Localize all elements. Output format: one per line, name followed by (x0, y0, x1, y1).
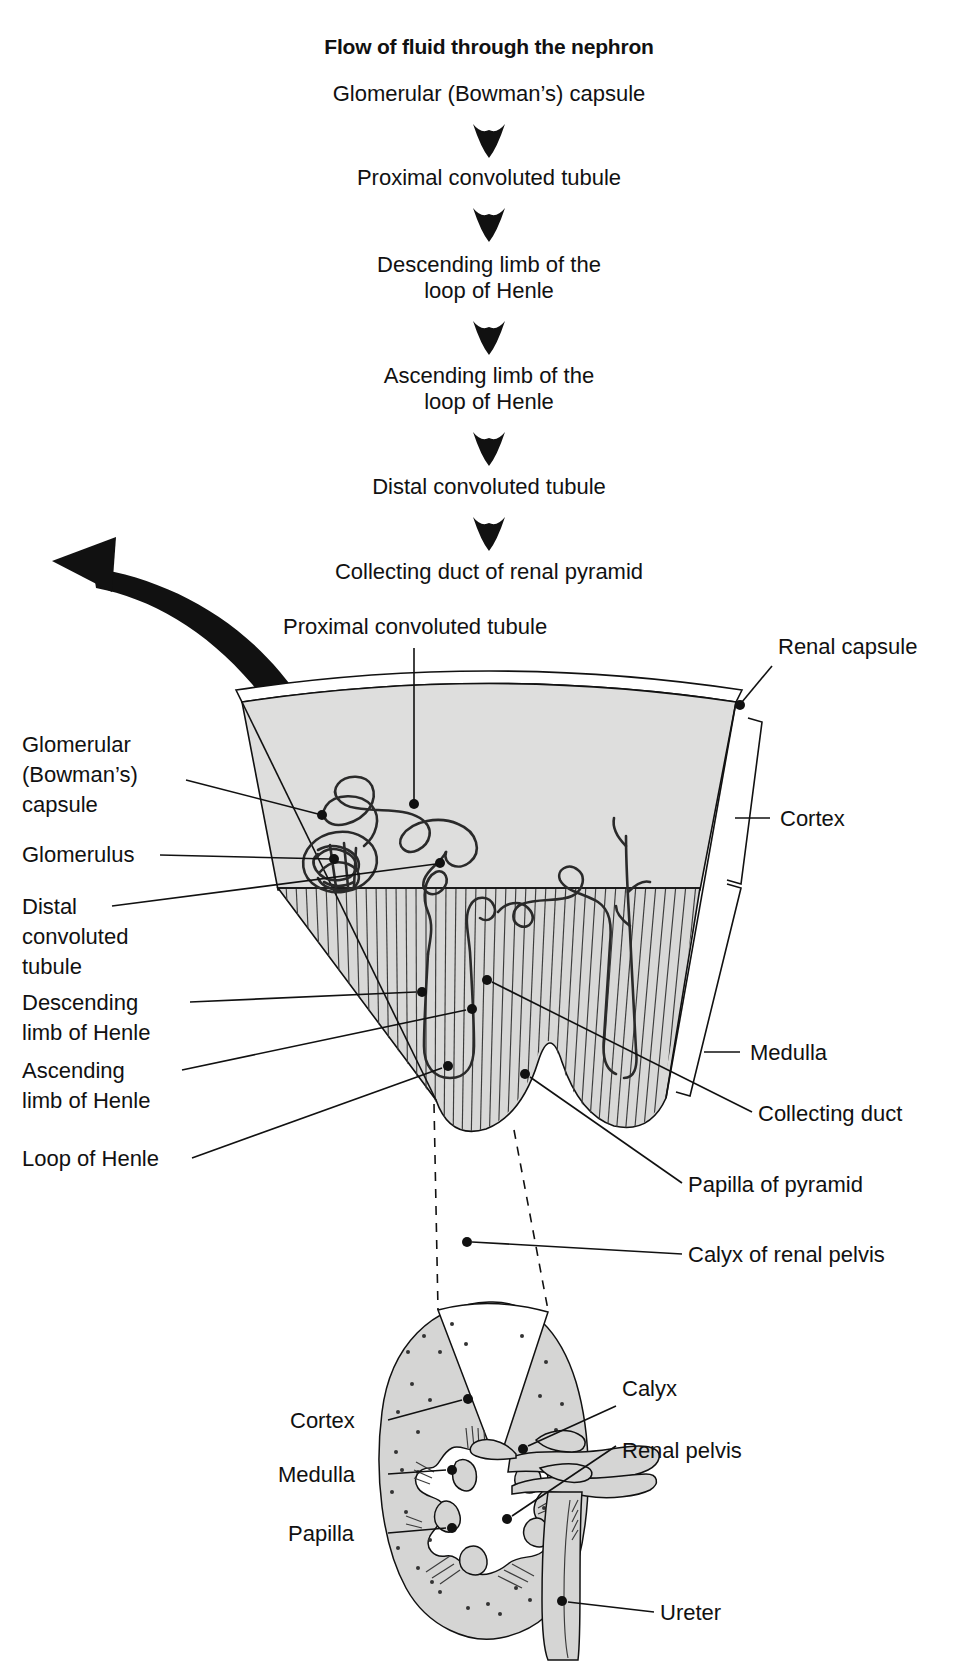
label-glomerulus: Glomerulus (22, 842, 134, 867)
diagram-page: Flow of fluid through the nephron Glomer… (0, 0, 978, 1677)
label-collecting-duct: Collecting duct (758, 1101, 902, 1126)
label-descending-limb-line-1: Descending (22, 990, 138, 1015)
marker-loop-of-henle (443, 1061, 453, 1071)
label-calyx-of-renal-pelvis: Calyx of renal pelvis (688, 1242, 885, 1267)
page-title: Flow of fluid through the nephron (324, 35, 653, 58)
label-inset-calyx: Calyx (622, 1376, 677, 1401)
flow-step-3-line-1: Descending limb of the (377, 252, 601, 277)
label-papilla-of-pyramid: Papilla of pyramid (688, 1172, 863, 1197)
flow-step-4-line-1: Ascending limb of the (384, 363, 594, 388)
marker-inset-calyx (518, 1444, 528, 1454)
nephron-diagram: Flow of fluid through the nephron Glomer… (0, 0, 978, 1677)
marker-collecting-duct (482, 975, 492, 985)
label-inset-medulla: Medulla (278, 1462, 356, 1487)
marker-inset-papilla (447, 1523, 457, 1533)
marker-calyx-of-renal-pelvis (462, 1237, 472, 1247)
marker-ascending-limb (467, 1004, 477, 1014)
medulla-region (278, 888, 700, 1131)
flow-step-4-line-2: loop of Henle (424, 389, 554, 414)
marker-proximal-convoluted-tubule (409, 799, 419, 809)
label-inset-ureter: Ureter (660, 1600, 721, 1625)
marker-inset-ureter (557, 1596, 567, 1606)
flow-step-3-line-2: loop of Henle (424, 278, 554, 303)
flow-step-6: Collecting duct of renal pyramid (335, 559, 643, 584)
label-inset-renal-pelvis: Renal pelvis (622, 1438, 742, 1463)
label-renal-capsule: Renal capsule (778, 634, 917, 659)
leader-loop-of-henle (192, 1068, 442, 1158)
label-ascending-limb-line-2: limb of Henle (22, 1088, 150, 1113)
flow-arrow-4 (473, 426, 505, 466)
marker-inset-renal-pelvis (502, 1514, 512, 1524)
label-medulla: Medulla (750, 1040, 828, 1065)
marker-inset-medulla (447, 1465, 457, 1475)
marker-descending-limb (417, 987, 427, 997)
flow-step-2: Proximal convoluted tubule (357, 165, 621, 190)
marker-renal-capsule (735, 700, 745, 710)
inset-ureter-tube (542, 1492, 582, 1660)
label-inset-papilla: Papilla (288, 1521, 355, 1546)
label-glomerular-capsule-line-1: Glomerular (22, 732, 131, 757)
flow-arrow-3 (473, 315, 505, 355)
leader-inset-ureter (568, 1602, 654, 1612)
label-ascending-limb-line-1: Ascending (22, 1058, 125, 1083)
flow-step-5: Distal convoluted tubule (372, 474, 606, 499)
label-glomerular-capsule-line-3: capsule (22, 792, 98, 817)
label-distal-convoluted-tubule-line-2: convoluted (22, 924, 128, 949)
leader-renal-capsule (742, 666, 772, 702)
magnify-line-left (434, 1104, 438, 1310)
label-proximal-convoluted-tubule: Proximal convoluted tubule (283, 614, 547, 639)
label-descending-limb-line-2: limb of Henle (22, 1020, 150, 1045)
marker-inset-cortex (463, 1394, 473, 1404)
marker-glomerulus (329, 854, 339, 864)
magnify-line-right (514, 1130, 548, 1310)
flow-arrow-2 (473, 202, 505, 242)
cortex-bracket (727, 718, 762, 884)
label-loop-of-henle: Loop of Henle (22, 1146, 159, 1171)
label-distal-convoluted-tubule-line-1: Distal (22, 894, 77, 919)
marker-papilla-of-pyramid (520, 1069, 530, 1079)
label-inset-cortex: Cortex (290, 1408, 355, 1433)
flow-arrow-5 (473, 511, 505, 551)
label-glomerular-capsule-line-2: (Bowman’s) (22, 762, 138, 787)
marker-glomerular-capsule (317, 810, 327, 820)
flow-step-1: Glomerular (Bowman’s) capsule (333, 81, 646, 106)
marker-distal-convoluted-tubule (435, 858, 445, 868)
label-cortex: Cortex (780, 806, 845, 831)
kidney-inset (379, 1302, 659, 1660)
leader-calyx-of-renal-pelvis (472, 1242, 682, 1254)
label-distal-convoluted-tubule-line-3: tubule (22, 954, 82, 979)
flow-arrow-1 (473, 118, 505, 158)
